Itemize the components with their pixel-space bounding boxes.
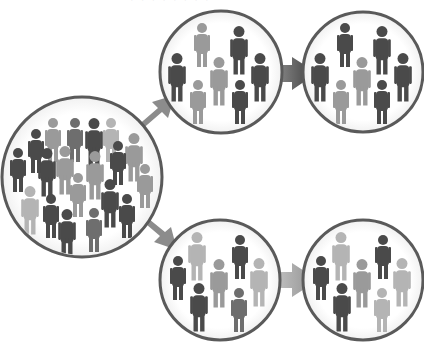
circle-population <box>2 97 162 258</box>
circle-sample-a-next <box>303 12 423 132</box>
circle-sample-b <box>160 220 280 340</box>
circle-sample-a <box>160 11 282 133</box>
sampling-diagram <box>0 0 424 345</box>
circle-sample-b-next <box>303 220 423 340</box>
